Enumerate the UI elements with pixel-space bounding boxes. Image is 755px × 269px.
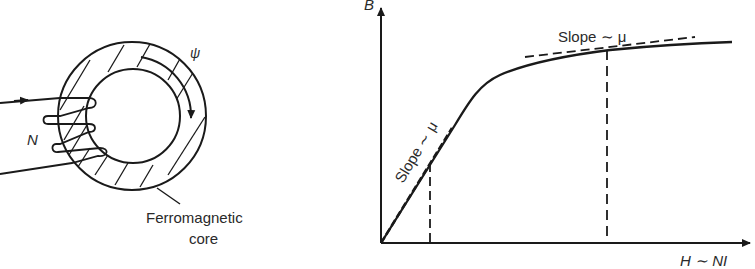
saturation-slope-label: Slope ∼ μ xyxy=(558,28,626,45)
current-arrow-icon xyxy=(14,100,28,101)
core-label-line2: core xyxy=(189,230,218,247)
core-label-line1: Ferromagnetic xyxy=(146,209,243,226)
flux-arrow-icon xyxy=(141,57,191,118)
core-hatching xyxy=(60,44,206,187)
bh-graph: B H ∼ NI Slope ∼ μ Slope ∼ μ xyxy=(364,0,750,269)
turns-label: N xyxy=(27,131,38,148)
initial-slope-label: Slope ∼ μ xyxy=(391,118,441,185)
magnetization-diagram: N ψ Ferromagnetic core B H ∼ NI Slope ∼ … xyxy=(0,0,755,269)
core-leader-line xyxy=(157,188,180,204)
bh-curve xyxy=(381,42,732,243)
toroid-core xyxy=(58,42,206,190)
x-axis-label: H ∼ NI xyxy=(680,252,727,269)
flux-label: ψ xyxy=(190,45,200,61)
y-axis-label: B xyxy=(364,0,374,13)
outer-ring xyxy=(58,42,206,190)
